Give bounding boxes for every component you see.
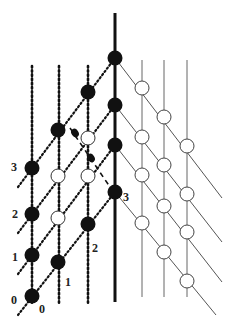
open-node xyxy=(157,158,171,172)
open-node xyxy=(180,139,194,153)
thin-diagonal-0 xyxy=(115,58,222,198)
filled-node xyxy=(25,248,40,263)
col-label-1: 1 xyxy=(65,275,71,289)
filled-node xyxy=(51,255,66,270)
open-node xyxy=(157,110,171,124)
open-node xyxy=(135,130,149,144)
filled-node xyxy=(51,123,66,138)
open-node xyxy=(135,216,149,230)
filled-node xyxy=(108,98,123,113)
row-label-3: 3 xyxy=(11,160,17,174)
col-label-0: 0 xyxy=(39,302,45,316)
open-node xyxy=(180,274,194,288)
lattice-diagram: 3 2 1 0 0 1 2 3 xyxy=(0,0,233,336)
thick-line-label: 3 xyxy=(123,190,129,204)
open-node xyxy=(180,187,194,201)
open-node xyxy=(51,169,65,183)
filled-node xyxy=(81,85,96,100)
open-node xyxy=(135,168,149,182)
thin-diagonal-1 xyxy=(115,105,222,242)
open-node xyxy=(51,211,65,225)
filled-node xyxy=(81,217,96,232)
open-node xyxy=(157,245,171,259)
row-label-1: 1 xyxy=(12,250,18,264)
filled-node xyxy=(25,289,40,304)
col-label-2: 2 xyxy=(92,241,98,255)
row-label-2: 2 xyxy=(12,207,18,221)
thin-verticals xyxy=(142,60,187,297)
open-node xyxy=(81,169,95,183)
filled-node xyxy=(108,185,123,200)
open-node xyxy=(135,81,149,95)
open-node xyxy=(180,225,194,239)
filled-node xyxy=(108,138,123,153)
filled-node xyxy=(25,207,40,222)
filled-node xyxy=(108,51,123,66)
open-node xyxy=(157,199,171,213)
row-label-0: 0 xyxy=(11,293,17,307)
filled-nodes xyxy=(25,51,123,304)
filled-node xyxy=(25,161,40,176)
thin-diagonals xyxy=(115,58,222,315)
open-node xyxy=(81,131,95,145)
